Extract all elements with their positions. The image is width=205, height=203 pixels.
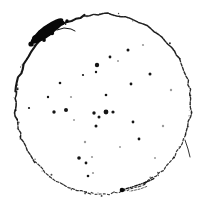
interior-speck [70,96,72,98]
rim-speckle [190,112,192,114]
rim-speckle [132,20,133,21]
rim-speckle [20,71,21,72]
bottom-branch-node [120,188,125,193]
rim-speckle [188,126,189,127]
interior-speck [117,60,119,62]
ink-blob-lobe [28,41,33,46]
rim-speckle [118,13,119,14]
rim-speckle [34,159,35,160]
rim-speckle [113,191,115,193]
interior-speck [132,121,135,124]
arc-left-lower [17,119,34,162]
rim-speckle [189,94,191,96]
blob-whisker [57,28,75,31]
rim-speckle [20,66,21,67]
interior-speck [95,63,99,67]
interior-speck-field [28,44,172,177]
ink-blob-lobe [60,21,65,26]
rim-speckle [149,176,151,178]
arc-top-right [85,13,180,59]
interior-speck [77,156,81,160]
rim-speckle [155,32,156,33]
rim-speckle [173,157,175,159]
interior-speck [59,82,62,85]
ink-blob-lobe [53,23,60,30]
rim-speckle [138,186,139,187]
interior-speck [92,172,94,174]
interior-speck [84,141,86,143]
rim-speckle [97,192,98,193]
rim-speckle [101,195,103,197]
interior-speck [73,119,75,121]
rim-speckle [26,58,27,59]
interior-speck [91,156,93,158]
arc-left-upper [15,92,18,120]
rim-speckle [157,175,159,177]
interior-speck [138,138,141,141]
rim-speckle [129,191,130,192]
interior-speck [119,146,121,148]
interior-speck [154,157,156,159]
rim-speckle [157,172,158,173]
interior-speck [95,71,97,73]
interior-speck [92,111,95,114]
rim-speckle [137,21,138,22]
rim-speckle [188,83,189,84]
rim-speckle [155,31,156,32]
interior-speck [64,108,68,112]
rim-speckle [169,42,171,44]
rim-speckle [63,184,64,185]
interior-speck [170,89,172,91]
interior-speck [104,110,109,115]
arc-right-lower [145,135,186,184]
rim-speckle [147,25,148,26]
rim-speckle [13,97,14,98]
interior-speck [130,83,133,86]
interior-speck [109,56,112,59]
bottom-branch-primary [122,178,155,190]
interior-speck [87,175,90,178]
rim-speckle [85,191,86,192]
rim-speckle [20,138,22,140]
interior-speck [149,73,152,76]
interior-speck [82,74,84,76]
rim-speckle [188,115,189,116]
interior-speck [95,125,98,128]
interior-speck [47,96,49,98]
rim-speckle [49,176,50,177]
rim-speckle [17,128,18,129]
rim-speckle [19,136,21,138]
interior-speck [28,107,30,109]
rim-speckle [119,16,120,17]
rim-speckle [84,193,86,195]
rim-speckle [17,87,19,89]
upper-left-ink-blob [28,15,75,48]
rim-speckle [185,73,186,74]
interior-speck [85,162,88,165]
ink-blob-lobe [65,19,68,22]
rim-speckle [15,101,16,102]
rim-speckle [189,104,190,105]
rim-speckle [50,174,52,176]
rim-speckle [18,122,20,124]
interior-speck [127,49,130,52]
rim-speckle [189,110,190,111]
arc-bottom-left [35,162,90,194]
rim-speckle [71,189,72,190]
arc-right-upper [180,59,192,135]
interior-speck [111,110,114,113]
rim-speckle [65,23,67,25]
ink-blob-lobe [42,38,46,42]
interior-speck [105,94,108,97]
ink-blob-lobe [50,31,54,35]
rim-speckle [22,64,24,66]
right-rim-kink [185,140,190,157]
interior-speck [162,125,164,127]
interior-speck [52,110,55,113]
rim-speckle [179,146,181,148]
right-rim-kink [185,140,190,157]
rim-speckle [86,16,88,18]
interior-speck [98,116,101,119]
rim-speckle [28,55,30,57]
rim-speckle [131,188,132,189]
